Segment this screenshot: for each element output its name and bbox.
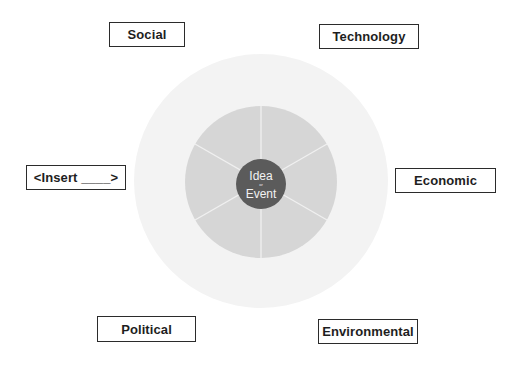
- insert-label-box: <Insert ____>: [26, 165, 126, 190]
- center-label-idea: Idea: [249, 170, 272, 182]
- environmental-label-box: Environmental: [318, 319, 418, 344]
- social-label-box: Social: [109, 22, 185, 47]
- center-label: Idea or Event: [236, 160, 286, 210]
- center-label-event: Event: [246, 188, 277, 200]
- political-label-box: Political: [97, 316, 196, 342]
- concentric-wheel-diagram: Idea or Event Social Technology <Insert …: [0, 0, 523, 366]
- economic-label-box: Economic: [395, 168, 496, 193]
- technology-label-box: Technology: [319, 24, 419, 49]
